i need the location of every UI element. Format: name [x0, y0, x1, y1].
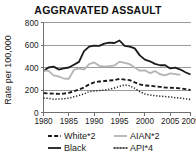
x-tick-label-1995: 1995: [110, 117, 129, 126]
series-line-api4: [44, 85, 191, 100]
series-line-black: [44, 41, 191, 75]
x-tick-label-1985: 1985: [60, 117, 79, 126]
y-axis-title: Rate per 100,000: [3, 35, 13, 105]
x-tick-label-2009: 2009: [181, 117, 196, 126]
y-tick-label-200: 200: [25, 86, 39, 95]
y-tick-label-800: 800: [25, 19, 39, 28]
legend-label-aian2: AIAN*2: [130, 131, 160, 141]
x-tick-label-2005: 2005: [161, 117, 180, 126]
aggravated-assault-chart-card: AGGRAVATED ASSAULT 0200400600800 1980198…: [0, 0, 196, 159]
x-tick-label-1980: 1980: [34, 117, 53, 126]
y-axis-tick-labels: 0200400600800: [25, 19, 44, 118]
legend-label-white2: White*2: [64, 131, 96, 141]
chart-legend: White*2AIAN*2BlackAPI*4: [48, 131, 160, 153]
y-tick-label-600: 600: [25, 41, 39, 50]
data-series-group: [44, 41, 191, 100]
series-line-aian2: [44, 62, 181, 79]
legend-label-api4: API*4: [130, 143, 153, 153]
series-line-white2: [44, 79, 191, 94]
legend-label-black: Black: [64, 143, 87, 153]
x-axis-tick-labels: 1980198519901995200020052009: [34, 113, 196, 126]
chart-plot-area: 0200400600800 19801985199019952000200520…: [0, 0, 196, 159]
y-tick-label-400: 400: [25, 64, 39, 73]
x-tick-label-2000: 2000: [136, 117, 155, 126]
x-tick-label-1990: 1990: [85, 117, 104, 126]
